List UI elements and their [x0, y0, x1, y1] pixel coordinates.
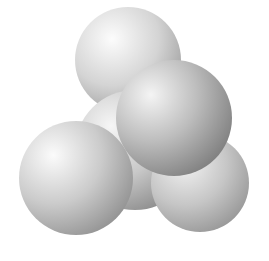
molecule-model: [0, 0, 269, 261]
left-atom: [19, 121, 133, 235]
front-atom: [116, 60, 232, 176]
